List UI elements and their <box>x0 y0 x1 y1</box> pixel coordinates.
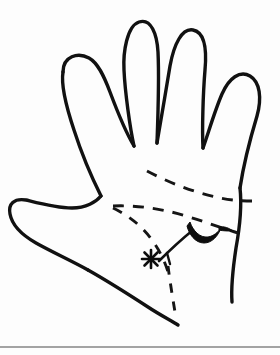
hand-diagram <box>0 0 280 355</box>
vertical-dashed-crease <box>168 266 176 318</box>
pinky-finger-outline <box>203 74 260 188</box>
crescent-mark-tail-icon <box>219 227 233 231</box>
hand-right-edge <box>232 188 241 302</box>
palm-bottom-edge <box>88 270 178 325</box>
hand-outline-group <box>10 21 260 325</box>
figure-page <box>0 0 280 355</box>
asterisk-marker-icon <box>142 250 160 268</box>
ring-finger-outline <box>157 30 206 148</box>
upper-dashed-crease <box>147 171 252 201</box>
pointer-line <box>159 230 193 261</box>
index-finger-inner-edge <box>63 72 101 196</box>
lower-dashed-crease <box>113 208 168 272</box>
solid-annotation-group <box>159 222 233 264</box>
middle-finger-outline <box>124 21 159 146</box>
thumb-outline <box>10 196 101 270</box>
pointer-tick <box>167 253 170 264</box>
